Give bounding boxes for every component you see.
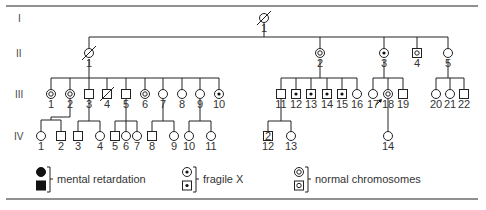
individual-number: 5 — [123, 98, 129, 110]
individual-number: 20 — [430, 98, 442, 110]
individual-number: 10 — [183, 140, 195, 152]
individual-number: 6 — [142, 98, 148, 110]
individual-III-2: 2 — [66, 90, 75, 111]
individual-number: 4 — [97, 140, 103, 152]
individual-IV-2: 2 — [57, 132, 66, 153]
fragile-x-dot — [325, 92, 328, 95]
individual-number: 14 — [382, 140, 394, 152]
individual-III-16: 16 — [351, 90, 363, 111]
individual-III-19: 19 — [397, 90, 409, 111]
filled-square-icon — [37, 181, 46, 190]
individual-number: 17 — [367, 98, 379, 110]
individual-II-3: 3 — [380, 49, 389, 70]
individual-number: 12 — [262, 140, 274, 152]
individual-III-11: 11 — [275, 90, 286, 111]
legend-item-fragile-x: fragile X — [183, 167, 245, 192]
individual-III-22: 22 — [458, 90, 470, 111]
individual-III-9: 9 — [196, 90, 205, 111]
individual-IV-9: 9 — [170, 132, 179, 153]
legend-label: fragile X — [203, 173, 244, 185]
individual-III-21: 21 — [444, 90, 456, 111]
pedigree-lines — [41, 22, 464, 131]
individual-III-7: 7 — [159, 90, 168, 111]
individual-number: 3 — [86, 98, 92, 110]
individual-number: 9 — [197, 98, 203, 110]
individual-number: 4 — [104, 98, 110, 110]
individual-number: 1 — [261, 22, 267, 34]
individual-number: 4 — [414, 57, 420, 69]
individual-number: 8 — [179, 98, 185, 110]
individual-III-20: 20 — [430, 90, 442, 111]
pedigree-diagram: I II III IV — [0, 0, 486, 210]
individual-III-8: 8 — [178, 90, 187, 111]
individual-III-14: 14 — [321, 90, 333, 111]
fragile-x-dot — [382, 51, 385, 54]
individual-number: 3 — [381, 57, 387, 69]
individual-number: 11 — [275, 98, 286, 110]
legend-bracket — [305, 167, 311, 192]
generation-label: II — [16, 48, 22, 59]
normal-chromosome-ring — [415, 51, 419, 55]
fragile-x-dot — [309, 92, 312, 95]
individual-number: 2 — [67, 98, 73, 110]
individual-number: 13 — [285, 140, 297, 152]
individual-II-4: 4 — [413, 49, 422, 70]
individual-IV-6: 6 — [122, 132, 131, 153]
individual-number: 13 — [305, 98, 317, 110]
individual-number: 2 — [317, 57, 323, 69]
individual-IV-11: 11 — [205, 132, 216, 153]
normal-chromosome-ring — [68, 92, 72, 96]
individual-IV-1: 1 — [37, 132, 46, 153]
individual-III-1: 1 — [47, 90, 56, 111]
individual-number: 10 — [213, 98, 225, 110]
individual-number: 1 — [86, 57, 92, 69]
normal-chromosome-ring — [49, 92, 53, 96]
individual-III-13: 13 — [305, 90, 317, 111]
individual-number: 1 — [48, 98, 54, 110]
individual-III-15: 15 — [336, 90, 348, 111]
individual-III-6: 6 — [141, 90, 150, 111]
individual-II-5: 5 — [444, 49, 453, 70]
individual-IV-14: 14 — [382, 132, 394, 153]
legend-item-normal-chromosomes: normal chromosomes — [295, 167, 422, 192]
individual-number: 21 — [444, 98, 456, 110]
individual-II-2: 2 — [316, 49, 325, 70]
individual-number: 22 — [458, 98, 470, 110]
individual-IV-4: 4 — [96, 132, 105, 153]
legend-item-mental-retardation: mental retardation — [37, 167, 146, 192]
individual-IV-12: 212 — [262, 130, 274, 153]
individual-number: 18 — [382, 98, 394, 110]
individual-III-3: 3 — [85, 90, 94, 111]
individual-number: 9 — [171, 140, 177, 152]
legend-bracket — [193, 167, 199, 192]
normal-chromosome-ring — [143, 92, 147, 96]
individual-III-17: 17 — [367, 90, 382, 111]
individual-IV-8: 8 — [148, 132, 157, 153]
normal-chromosome-ring — [386, 92, 390, 96]
individual-III-5: 5 — [122, 90, 131, 111]
individual-I-1: 1 — [257, 11, 271, 34]
legend-bracket — [47, 167, 53, 192]
individual-number: 5 — [112, 140, 118, 152]
legend: mental retardation fragile X normal chro… — [37, 167, 422, 192]
fragile-x-dot — [217, 92, 220, 95]
individual-number: 11 — [205, 140, 216, 152]
individual-IV-5: 5 — [111, 132, 120, 153]
individual-number: 1 — [38, 140, 44, 152]
generation-label: I — [18, 13, 21, 24]
generation-label: III — [15, 89, 23, 100]
fragile-x-dot — [340, 92, 343, 95]
individual-number: 7 — [134, 140, 140, 152]
individual-IV-13: 13 — [285, 132, 297, 153]
individual-number: 3 — [75, 140, 81, 152]
individual-II-1: 1 — [82, 46, 96, 69]
individual-number: 7 — [160, 98, 166, 110]
individual-number: 12 — [290, 98, 302, 110]
individual-number: 6 — [123, 140, 129, 152]
filled-circle-icon — [37, 168, 46, 177]
individual-IV-3: 3 — [74, 132, 83, 153]
individual-III-18: 18 — [382, 90, 394, 111]
individual-IV-10: 10 — [183, 132, 195, 153]
individual-number: 5 — [445, 57, 451, 69]
pedigree-symbols: 1123451234567891011121314151617181920212… — [37, 11, 471, 152]
